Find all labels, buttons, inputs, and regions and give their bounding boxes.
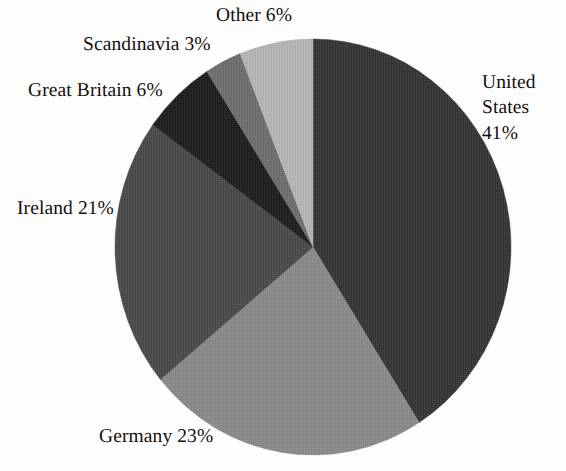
slice-label-other: Other 6% xyxy=(216,3,292,28)
slice-label-ireland: Ireland 21% xyxy=(17,196,114,221)
pie-halftone-texture xyxy=(115,39,511,455)
slice-label-great-britain: Great Britain 6% xyxy=(28,78,163,103)
slice-label-germany: Germany 23% xyxy=(99,424,213,449)
slice-label-scandinavia: Scandinavia 3% xyxy=(83,32,211,57)
pie-chart-figure: United States 41% Germany 23% Ireland 21… xyxy=(0,0,566,471)
slice-label-united-states: United States 41% xyxy=(482,70,536,146)
